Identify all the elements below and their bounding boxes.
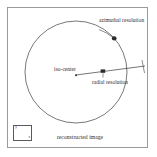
figure-container: azimuthal resolution radial resolution i… xyxy=(0,0,157,157)
radial-resolution-marker xyxy=(101,69,106,72)
iso-center-label: iso-center xyxy=(47,66,83,72)
figure-caption: reconstructed image xyxy=(40,134,120,140)
radial-resolution-label: radial resolution xyxy=(89,79,131,85)
axis-x-label: x xyxy=(29,136,31,139)
iso-center-marker xyxy=(75,74,77,76)
radial-ray-line xyxy=(76,66,145,75)
azimuthal-resolution-label: azimuthal resolution xyxy=(99,17,143,23)
axis-y-label: y xyxy=(15,126,17,129)
